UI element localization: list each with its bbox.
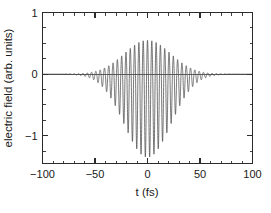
x-tick-label: −50 xyxy=(86,168,105,180)
x-axis-major-ticks xyxy=(43,13,253,164)
x-axis-tick-labels: −100−50050100 xyxy=(30,168,262,180)
y-tick-label: 1 xyxy=(31,7,37,19)
x-tick-label: −100 xyxy=(30,168,55,180)
y-axis-title: electric field (arb. units) xyxy=(2,28,14,147)
x-tick-label: 100 xyxy=(243,168,261,180)
electric-field-curve xyxy=(43,40,253,157)
x-tick-label: 50 xyxy=(194,168,206,180)
y-axis-tick-labels: −101 xyxy=(25,7,38,142)
chart-figure: −100−50050100 −101 t (fs) electric field… xyxy=(0,0,271,213)
x-axis-minor-ticks xyxy=(53,13,242,164)
electric-field-plot: −100−50050100 −101 t (fs) electric field… xyxy=(0,0,271,213)
y-tick-label: 0 xyxy=(31,68,37,80)
plot-frame xyxy=(43,13,253,164)
x-axis-title: t (fs) xyxy=(136,186,159,198)
x-tick-label: 0 xyxy=(144,168,150,180)
data-series-group xyxy=(43,40,253,157)
plot-axes xyxy=(43,13,253,164)
y-tick-label: −1 xyxy=(25,130,38,142)
